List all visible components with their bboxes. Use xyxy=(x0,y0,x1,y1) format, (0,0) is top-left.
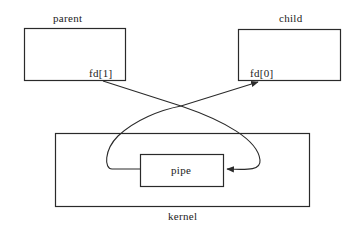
parent-fd1-label: fd[1] xyxy=(89,68,113,79)
child-label: child xyxy=(279,13,303,24)
read-edge-pipe-to-fd0 xyxy=(107,82,258,169)
parent-label: parent xyxy=(53,13,82,24)
child-fd0-label: fd[0] xyxy=(250,68,274,79)
write-edge-fd1-to-pipe xyxy=(103,81,260,169)
diagram-canvas xyxy=(0,0,357,238)
pipe-label: pipe xyxy=(171,165,191,176)
kernel-label: kernel xyxy=(168,211,197,222)
